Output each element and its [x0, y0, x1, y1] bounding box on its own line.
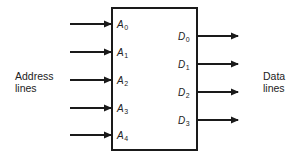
pin-index: 1: [124, 52, 128, 59]
pin-label-d1: D1: [178, 60, 190, 73]
pin-label-d0: D0: [178, 32, 190, 45]
data-lines-label-line2: lines: [263, 82, 285, 94]
pin-label-a0: A0: [117, 20, 128, 33]
address-lines-label-line1: Address: [15, 70, 54, 82]
pin-index: 3: [186, 120, 190, 127]
pin-index: 0: [186, 36, 190, 43]
pin-index: 1: [186, 64, 190, 71]
pin-index: 4: [124, 135, 128, 142]
address-lines-label-line2: lines: [15, 82, 54, 94]
pin-letter: A: [117, 47, 124, 58]
pin-index: 2: [124, 80, 128, 87]
pin-letter: D: [178, 115, 185, 126]
pin-letter: D: [178, 59, 185, 70]
pin-letter: A: [117, 130, 124, 141]
pin-label-a1: A1: [117, 48, 128, 61]
pin-label-d3: D3: [178, 116, 190, 129]
pin-letter: D: [178, 87, 185, 98]
address-lines-label: Address lines: [15, 70, 54, 94]
pin-label-d2: D2: [178, 88, 190, 101]
pin-label-a3: A3: [117, 104, 128, 117]
pin-index: 0: [124, 24, 128, 31]
pin-index: 3: [124, 108, 128, 115]
data-lines-label: Data lines: [263, 70, 285, 94]
pin-letter: A: [117, 103, 124, 114]
pin-letter: D: [178, 31, 185, 42]
pin-label-a4: A4: [117, 131, 128, 144]
data-lines-label-line1: Data: [263, 70, 285, 82]
pin-letter: A: [117, 19, 124, 30]
pin-letter: A: [117, 75, 124, 86]
pin-index: 2: [186, 92, 190, 99]
pin-label-a2: A2: [117, 76, 128, 89]
